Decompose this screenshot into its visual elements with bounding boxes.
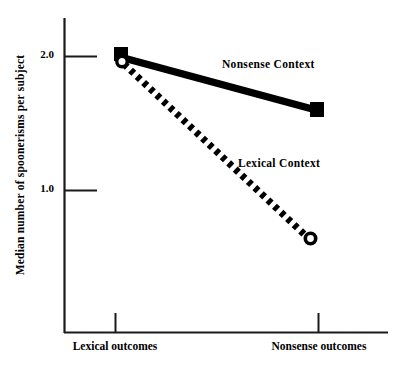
data-point-lexical-context-lexical-outcomes <box>117 56 127 66</box>
spoonerisms-line-chart: Median number of spoonerisms per subject… <box>0 0 412 370</box>
data-point-lexical-context-nonsense-outcomes <box>305 233 315 243</box>
series-line-nonsense-context <box>120 57 316 110</box>
chart-plot-area <box>0 0 412 370</box>
series-line-lexical-context <box>124 64 306 236</box>
data-point-nonsense-context-nonsense-outcomes <box>310 102 324 117</box>
